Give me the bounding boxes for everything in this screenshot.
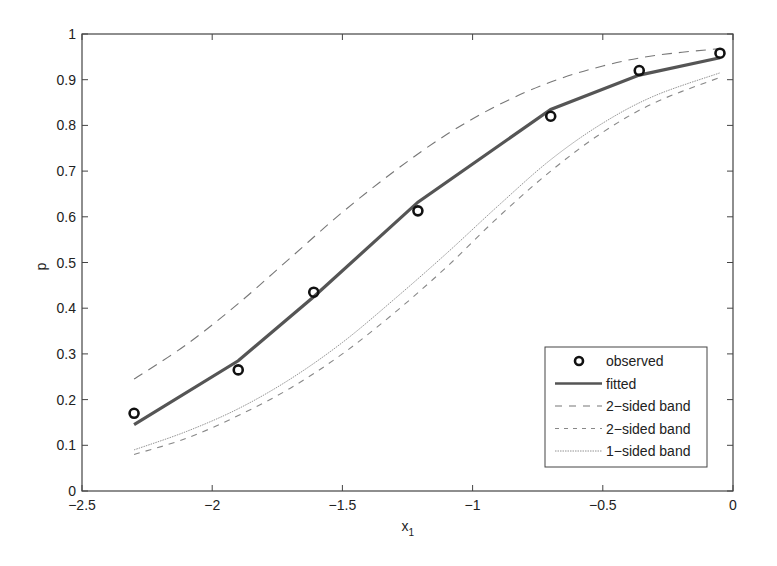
x-tick-label: −2 bbox=[204, 497, 220, 513]
chart-background bbox=[0, 0, 777, 566]
y-tick-label: 0.2 bbox=[57, 392, 77, 408]
y-tick-label: 0.5 bbox=[57, 255, 77, 271]
y-tick-label: 0.4 bbox=[57, 300, 77, 316]
y-tick-label: 0.7 bbox=[57, 163, 77, 179]
legend-label: 1−sided band bbox=[606, 443, 690, 459]
x-tick-label: −1.5 bbox=[329, 497, 357, 513]
y-tick-label: 0.6 bbox=[57, 209, 77, 225]
y-tick-label: 0.3 bbox=[57, 346, 77, 362]
x-axis-label-subscript: 1 bbox=[409, 527, 415, 538]
y-tick-label: 0.9 bbox=[57, 72, 77, 88]
y-tick-label: 0.8 bbox=[57, 117, 77, 133]
y-tick-label: 1 bbox=[68, 26, 76, 42]
y-axis-label: p bbox=[33, 262, 49, 270]
x-tick-label: −0.5 bbox=[589, 497, 617, 513]
x-tick-label: −2.5 bbox=[68, 497, 96, 513]
legend-label: 2−sided band bbox=[606, 421, 690, 437]
y-tick-label: 0.1 bbox=[57, 437, 77, 453]
chart: −2.5−2−1.5−1−0.5000.10.20.30.40.50.60.70… bbox=[0, 0, 777, 566]
legend-label: 2−sided band bbox=[606, 398, 690, 414]
legend-label: observed bbox=[606, 353, 664, 369]
x-tick-label: −1 bbox=[465, 497, 481, 513]
y-tick-label: 0 bbox=[68, 483, 76, 499]
legend-label: fitted bbox=[606, 376, 636, 392]
legend: observedfitted2−sided band2−sided band1−… bbox=[545, 347, 707, 467]
x-tick-label: 0 bbox=[729, 497, 737, 513]
